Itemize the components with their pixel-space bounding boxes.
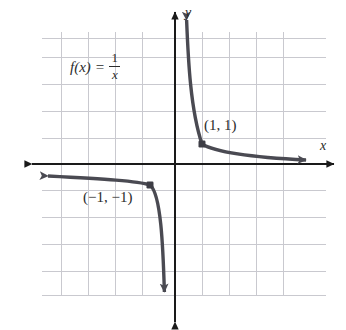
- point-label-neg1-neg1: (−1, −1): [83, 190, 132, 205]
- equation-fraction: 1 x: [109, 51, 120, 81]
- point-label-1-1: (1, 1): [204, 118, 237, 133]
- graph-figure: f(x) = 1 x (1, 1) (−1, −1) x y: [0, 0, 346, 330]
- equation-label: f(x) = 1 x: [70, 52, 120, 82]
- graph-canvas: [0, 0, 346, 330]
- equation-function-name: f(x): [70, 60, 91, 75]
- fraction-numerator: 1: [110, 51, 121, 65]
- fraction-denominator: x: [110, 68, 120, 82]
- point-marker-neg1-neg1: [147, 182, 154, 189]
- y-axis-label: y: [185, 6, 191, 20]
- x-axis-label: x: [320, 139, 326, 153]
- point-marker-1-1: [199, 141, 206, 148]
- equation-equals-sign: =: [96, 60, 104, 75]
